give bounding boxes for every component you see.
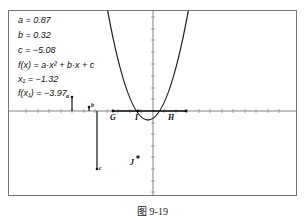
- label-a[interactable]: a: [66, 93, 69, 99]
- point-J: [136, 155, 140, 159]
- param-b: b = 0.32: [18, 30, 51, 41]
- label-H: H: [168, 113, 174, 122]
- param-a: a = 0.87: [18, 15, 51, 26]
- label-I: I: [135, 113, 138, 122]
- param-c: c = −5.08: [18, 45, 56, 56]
- label-G: G: [110, 113, 116, 122]
- param-x1: x₁ = −1.32: [18, 74, 58, 85]
- function-def: f(x) = a·x² + b·x + c: [18, 60, 94, 71]
- point-I: [137, 110, 140, 113]
- figure-caption: 图 9-19: [0, 203, 305, 218]
- label-c[interactable]: c: [99, 165, 102, 171]
- point-H: [185, 110, 188, 113]
- point-G: [112, 110, 115, 113]
- label-b[interactable]: b: [91, 102, 94, 108]
- param-fx1: f(x₁) = −3.97: [18, 88, 67, 99]
- parabola-curve: [108, 11, 189, 120]
- label-J: J: [130, 158, 134, 167]
